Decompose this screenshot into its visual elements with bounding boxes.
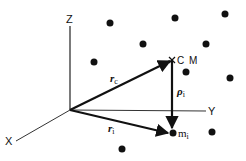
particle-m-i-label: mi: [178, 127, 190, 141]
particle-dot: [172, 15, 179, 22]
center-of-mass-label: C M: [177, 55, 198, 66]
particle-dot: [183, 69, 190, 76]
vector-r-c-label: rc: [110, 72, 118, 86]
x-axis-label: X: [5, 135, 13, 147]
vector-r-i: [70, 110, 168, 133]
particle-dot: [227, 75, 234, 82]
vector-r-i-label: ri: [108, 122, 115, 136]
y-axis: [70, 110, 206, 111]
particle-dot: [91, 59, 98, 66]
particle-dot: [222, 11, 229, 18]
x-axis: [16, 110, 70, 141]
particle-dot: [107, 20, 114, 27]
particle-m-i: [170, 130, 177, 137]
vector-r-c: [70, 61, 170, 110]
particle-dot: [140, 41, 147, 48]
z-axis-label: Z: [66, 13, 73, 25]
vector-diagram: Z Y X rc ri ρi C M mi: [0, 0, 246, 161]
y-axis-label: Y: [208, 105, 216, 117]
particle-dot: [119, 146, 126, 153]
particle-dot: [209, 129, 216, 136]
vector-rho-i-label: ρi: [176, 85, 186, 99]
particle-dot: [203, 41, 210, 48]
